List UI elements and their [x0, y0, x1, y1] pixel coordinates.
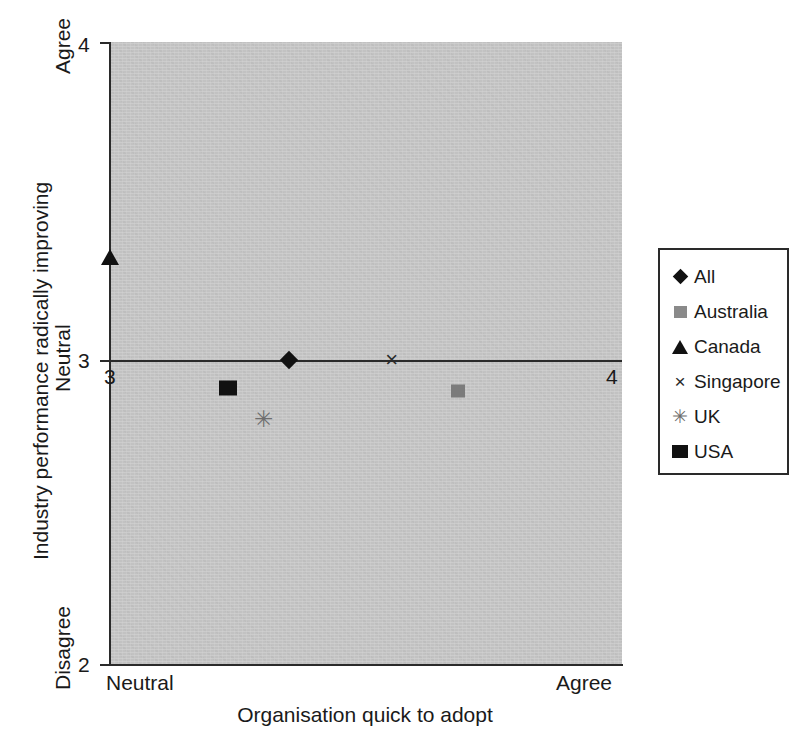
- y-tick-mark-2: [100, 664, 110, 666]
- y-axis-line: [109, 42, 111, 666]
- y-axis-title: Industry performance radically improving: [30, 182, 51, 560]
- legend-label-usa: USA: [694, 442, 733, 461]
- legend-item-usa[interactable]: USA: [660, 434, 787, 469]
- legend-item-canada[interactable]: Canada: [660, 329, 787, 364]
- neutral-reference-line: [110, 360, 622, 362]
- legend-label-uk: UK: [694, 407, 720, 426]
- legend-item-all[interactable]: All: [660, 259, 787, 294]
- black-square-marker-icon: [669, 441, 691, 463]
- x-anchor-label-right: Agree: [556, 672, 612, 693]
- triangle-marker-icon: [669, 336, 691, 358]
- legend: All Australia Canada × Singapore ✳ UK US…: [658, 248, 789, 475]
- x-tick-label-4: 4: [606, 366, 618, 387]
- y-tick-label-4: 4: [78, 34, 90, 55]
- legend-label-singapore: Singapore: [694, 372, 781, 391]
- legend-label-canada: Canada: [694, 337, 761, 356]
- x-anchor-label-left: Neutral: [106, 672, 174, 693]
- y-anchor-label-bottom: Disagree: [52, 606, 73, 690]
- plot-background-texture: [110, 42, 622, 665]
- x-tick-label-3: 3: [104, 366, 116, 387]
- y-tick-label-3: 3: [78, 350, 90, 371]
- y-anchor-label-middle: Neutral: [52, 324, 73, 392]
- x-axis-title: Organisation quick to adopt: [0, 704, 730, 725]
- y-tick-mark-3: [100, 360, 110, 362]
- x-marker-icon: ×: [669, 371, 691, 393]
- y-tick-label-2: 2: [78, 654, 90, 675]
- y-tick-mark-4: [100, 42, 110, 44]
- legend-label-all: All: [694, 267, 715, 286]
- legend-item-singapore[interactable]: × Singapore: [660, 364, 787, 399]
- x-axis-line: [110, 664, 623, 666]
- gray-square-marker-icon: [669, 301, 691, 323]
- legend-item-australia[interactable]: Australia: [660, 294, 787, 329]
- y-anchor-label-top: Agree: [52, 18, 73, 74]
- plot-area: [110, 42, 622, 665]
- legend-item-uk[interactable]: ✳ UK: [660, 399, 787, 434]
- asterisk-marker-icon: ✳: [669, 406, 691, 428]
- legend-label-australia: Australia: [694, 302, 768, 321]
- diamond-marker-icon: [669, 266, 691, 288]
- scatter-chart-figure: 4 3 2 3 4 Neutral Agree Agree Neutral Di…: [0, 0, 801, 750]
